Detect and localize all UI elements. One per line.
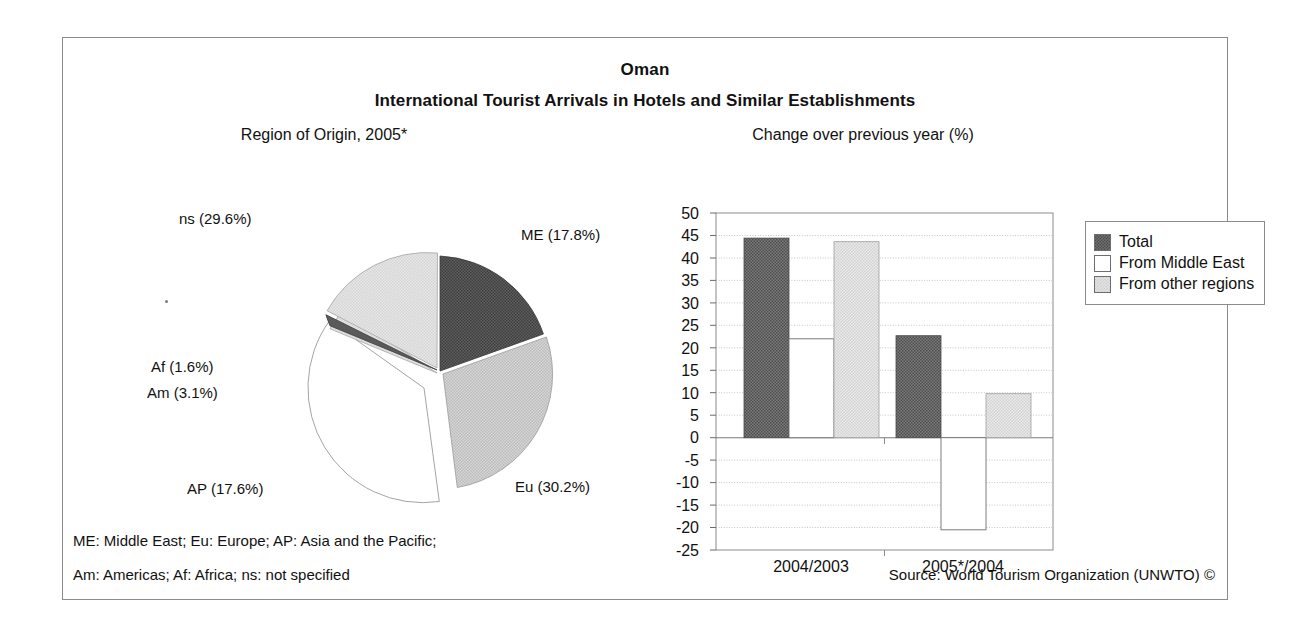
legend-item-other-regions[interactable]: From other regions bbox=[1094, 275, 1254, 293]
legend-label-total: Total bbox=[1119, 233, 1153, 251]
y-tick-50: 50 bbox=[653, 206, 699, 222]
y-tick-10: 10 bbox=[653, 386, 699, 402]
legend-label-middle-east: From Middle East bbox=[1119, 254, 1244, 272]
y-tick-5: 5 bbox=[653, 408, 699, 424]
y-tick-neg5: -5 bbox=[653, 453, 699, 469]
pie-panel-title: Region of Origin, 2005* bbox=[159, 126, 489, 144]
footnote-abbreviations-line1: ME: Middle East; Eu: Europe; AP: Asia an… bbox=[73, 532, 437, 549]
bar-2004-middle-east bbox=[789, 339, 834, 438]
y-tick-40: 40 bbox=[653, 251, 699, 267]
legend-item-total[interactable]: Total bbox=[1094, 233, 1254, 251]
legend-label-other-regions: From other regions bbox=[1119, 275, 1254, 293]
bar-2005-middle-east bbox=[941, 438, 986, 530]
chart-card: Oman International Tourist Arrivals in H… bbox=[62, 37, 1228, 600]
y-tick-30: 30 bbox=[653, 296, 699, 312]
pie-label-ns: ns (29.6%) bbox=[179, 210, 252, 227]
pie-chart: ns (29.6%) ME (17.8%) Eu (30.2%) AP (17.… bbox=[143, 158, 663, 548]
legend-swatch-other-regions-icon bbox=[1094, 276, 1111, 293]
y-tick-35: 35 bbox=[653, 273, 699, 289]
pie-label-am: Am (3.1%) bbox=[147, 384, 218, 401]
y-tick-25: 25 bbox=[653, 318, 699, 334]
y-tick-20: 20 bbox=[653, 341, 699, 357]
page-title: Oman bbox=[63, 60, 1227, 80]
y-tick-15: 15 bbox=[653, 363, 699, 379]
y-tick-neg15: -15 bbox=[653, 498, 699, 514]
pie-label-ap: AP (17.6%) bbox=[187, 480, 263, 497]
legend-swatch-middle-east-icon bbox=[1094, 255, 1111, 272]
bar-2005-other-regions bbox=[986, 394, 1031, 438]
page-subtitle: International Tourist Arrivals in Hotels… bbox=[63, 91, 1227, 111]
bar-2004-total bbox=[744, 238, 789, 438]
source-credit: Source: World Tourism Organization (UNWT… bbox=[889, 566, 1215, 583]
y-tick-0: 0 bbox=[653, 430, 699, 446]
footnote-abbreviations-line2: Am: Americas; Af: Africa; ns: not specif… bbox=[73, 566, 350, 583]
legend-item-middle-east[interactable]: From Middle East bbox=[1094, 254, 1254, 272]
bar-chart: 50 45 40 35 30 25 20 15 10 5 0 -5 -10 -1… bbox=[653, 158, 1233, 578]
pie-label-eu: Eu (30.2%) bbox=[515, 478, 590, 495]
bar-panel-title: Change over previous year (%) bbox=[663, 126, 1063, 144]
y-tick-45: 45 bbox=[653, 228, 699, 244]
y-tick-neg20: -20 bbox=[653, 520, 699, 536]
bar-chart-legend: Total From Middle East From other region… bbox=[1085, 221, 1265, 305]
x-category-2004: 2004/2003 bbox=[741, 558, 881, 576]
pie-label-me: ME (17.8%) bbox=[521, 226, 600, 243]
bar-2004-other-regions bbox=[834, 242, 879, 438]
bar-2005-total bbox=[896, 336, 941, 438]
y-tick-neg10: -10 bbox=[653, 475, 699, 491]
y-tick-neg25: -25 bbox=[653, 543, 699, 559]
pie-label-af: Af (1.6%) bbox=[151, 358, 214, 375]
legend-swatch-total-icon bbox=[1094, 234, 1111, 251]
